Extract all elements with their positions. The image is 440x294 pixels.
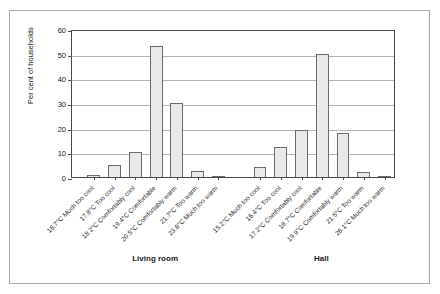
y-axis-label: Per cent of households <box>27 27 35 104</box>
x-group-label: Hall <box>314 255 329 263</box>
bar <box>170 103 183 177</box>
y-tick-mark <box>68 130 72 131</box>
gridline <box>72 80 394 81</box>
chart-figure: Per cent of households 0102030405060 16.… <box>0 0 440 294</box>
x-tick-mark <box>156 177 157 180</box>
bar <box>150 46 163 177</box>
y-tick-label: 20 <box>58 126 66 134</box>
x-tick-mark <box>135 177 136 180</box>
gridline <box>72 130 394 131</box>
y-tick-mark <box>68 56 72 57</box>
bar <box>129 152 142 177</box>
x-tick-mark <box>385 177 386 180</box>
x-tick-mark <box>198 177 199 180</box>
y-tick-mark <box>68 154 72 155</box>
bar <box>254 167 267 177</box>
y-tick-label: 40 <box>58 77 66 85</box>
y-tick-label: 10 <box>58 151 66 159</box>
x-tick-mark <box>94 177 95 180</box>
y-tick-label: 60 <box>58 27 66 35</box>
y-tick-label: 0 <box>62 175 66 183</box>
x-tick-mark <box>343 177 344 180</box>
x-tick-mark <box>281 177 282 180</box>
x-tick-mark <box>302 177 303 180</box>
x-tick-mark <box>115 177 116 180</box>
bar <box>108 165 121 177</box>
bar <box>295 130 308 177</box>
x-tick-mark <box>322 177 323 180</box>
y-tick-mark <box>68 179 72 180</box>
x-tick-mark <box>260 177 261 180</box>
x-group-label: Living room <box>132 255 178 263</box>
y-tick-mark <box>68 80 72 81</box>
x-tick-mark <box>177 177 178 180</box>
x-tick-mark <box>218 177 219 180</box>
plot-area: 0102030405060 <box>71 30 395 178</box>
bar <box>337 133 350 177</box>
bar <box>274 147 287 177</box>
y-tick-mark <box>68 105 72 106</box>
x-tick-mark <box>364 177 365 180</box>
y-tick-label: 50 <box>58 52 66 60</box>
bar <box>316 54 329 177</box>
gridline <box>72 56 394 57</box>
y-tick-label: 30 <box>58 101 66 109</box>
y-tick-mark <box>68 31 72 32</box>
gridline <box>72 105 394 106</box>
